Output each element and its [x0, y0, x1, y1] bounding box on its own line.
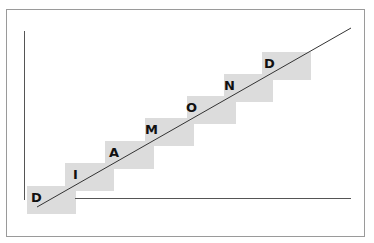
letter-m: M	[145, 122, 158, 137]
letter-a: A	[109, 145, 119, 160]
trend-line	[37, 28, 351, 207]
letter-d1: D	[31, 190, 42, 205]
letter-n: N	[224, 78, 235, 93]
letter-o: O	[186, 100, 197, 115]
axes-and-trend-line	[0, 0, 374, 243]
letter-i: I	[73, 167, 78, 182]
letter-d2: D	[264, 56, 275, 71]
diamond-staircase-diagram: D I A M O N D	[0, 0, 374, 243]
